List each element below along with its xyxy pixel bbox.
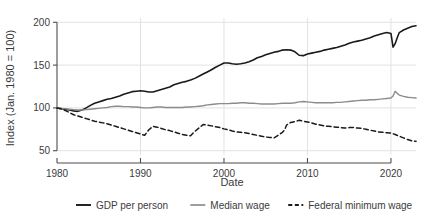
line-chart: 5010015020019801990200020102020 Index (J…	[0, 0, 428, 222]
legend-label: GDP per person	[96, 200, 168, 211]
chart-background	[0, 0, 428, 222]
y-tick-label: 200	[33, 17, 50, 28]
y-tick-label: 50	[39, 145, 51, 156]
y-tick-label: 150	[33, 60, 50, 71]
x-tick-label: 1980	[46, 168, 69, 179]
x-tick-label: 2020	[380, 168, 403, 179]
x-axis-title: Date	[220, 176, 243, 188]
y-tick-label: 100	[33, 102, 50, 113]
legend-label: Federal minimum wage	[308, 200, 412, 211]
x-tick-label: 2010	[296, 168, 319, 179]
x-tick-label: 1990	[129, 168, 152, 179]
chart-legend: GDP per personMedian wageFederal minimum…	[76, 200, 413, 211]
y-axis-title: Index (Jan. 1980 = 100)	[4, 30, 16, 147]
chart-figure: 5010015020019801990200020102020 Index (J…	[0, 0, 428, 222]
legend-label: Median wage	[210, 200, 270, 211]
